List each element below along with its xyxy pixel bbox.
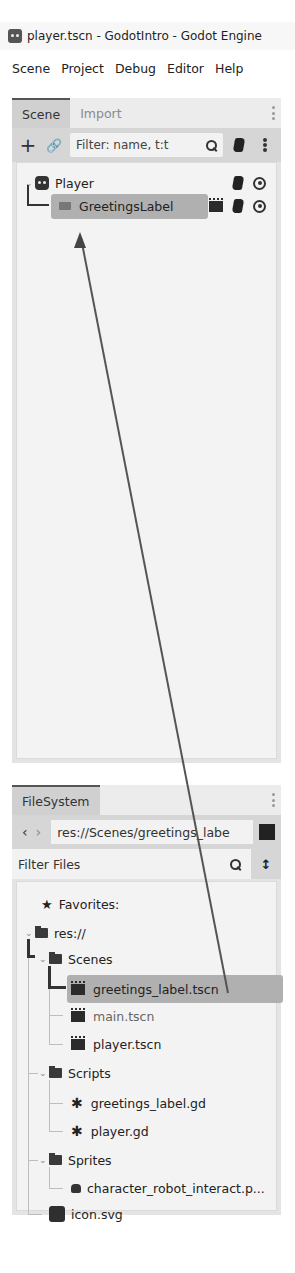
gear-icon: ✱ xyxy=(71,1096,83,1110)
file-label: icon.svg xyxy=(71,1207,123,1222)
file-label: Favorites: xyxy=(59,897,120,912)
search-icon xyxy=(206,140,217,151)
file-label: Scripts xyxy=(68,1066,111,1081)
player-node-icon xyxy=(35,176,49,190)
add-node-button[interactable]: + xyxy=(18,135,38,155)
filter-placeholder: Filter Files xyxy=(18,857,230,872)
node-actions xyxy=(209,199,266,213)
scene-icon xyxy=(71,1039,85,1050)
nav-arrows: ‹ › xyxy=(18,824,45,840)
label-node-icon xyxy=(59,202,71,210)
chevron-down-icon[interactable]: ⌄ xyxy=(39,1068,49,1078)
tab-bar-fill xyxy=(132,98,281,128)
folder-icon xyxy=(49,1155,62,1165)
folder-icon xyxy=(49,1068,62,1078)
toggle-split-icon[interactable] xyxy=(259,824,275,840)
window-title: player.tscn - GodotIntro - Godot Engine xyxy=(27,29,262,43)
attach-script-button[interactable] xyxy=(229,135,249,155)
file-item-greetings-label-tscn[interactable]: greetings_label.tscn xyxy=(17,975,276,1003)
file-item-greetings-label-gd[interactable]: ✱ greetings_label.gd xyxy=(17,1089,276,1117)
scene-menu-button[interactable] xyxy=(255,135,275,155)
filter-row: Filter Files ↕ xyxy=(12,849,281,879)
gear-icon: ✱ xyxy=(71,1124,83,1138)
file-label: Scenes xyxy=(68,952,113,967)
menu-help[interactable]: Help xyxy=(215,61,244,76)
dock-menu-icon[interactable] xyxy=(271,793,275,807)
file-item-player-tscn[interactable]: player.tscn xyxy=(17,1030,276,1058)
node-label: Player xyxy=(55,176,94,191)
folder-icon xyxy=(35,928,48,938)
link-icon[interactable]: 🔗 xyxy=(44,135,64,155)
chevron-down-icon[interactable]: ⌄ xyxy=(25,928,35,938)
node-label: GreetingsLabel xyxy=(79,199,173,214)
filter-files-input[interactable]: Filter Files xyxy=(12,849,251,879)
file-item-scripts[interactable]: ⌄ Scripts xyxy=(17,1059,276,1087)
tab-import[interactable]: Import xyxy=(70,98,132,128)
sort-button[interactable]: ↕ xyxy=(251,849,281,879)
scene-icon xyxy=(71,984,85,995)
chevron-down-icon[interactable]: ⌄ xyxy=(39,954,49,964)
back-button[interactable]: ‹ xyxy=(22,824,28,840)
file-label: greetings_label.gd xyxy=(91,1096,206,1111)
menu-editor[interactable]: Editor xyxy=(167,61,204,76)
chevron-down-icon[interactable]: ⌄ xyxy=(39,1155,49,1165)
scene-dock: Scene Import + 🔗 Filter: name, t:t ⌄ Pla… xyxy=(12,98,281,763)
image-icon xyxy=(71,1184,81,1193)
search-icon xyxy=(230,859,241,870)
scene-filter-input[interactable]: Filter: name, t:t xyxy=(70,133,223,157)
filesystem-dock-tabs: FileSystem xyxy=(12,785,281,815)
file-label: player.gd xyxy=(91,1124,149,1139)
file-label: player.tscn xyxy=(93,1037,161,1052)
file-item-favorites[interactable]: ★ Favorites: xyxy=(17,890,276,918)
path-field[interactable]: res://Scenes/greetings_labe xyxy=(51,820,253,844)
tab-scene[interactable]: Scene xyxy=(12,98,70,128)
menu-scene[interactable]: Scene xyxy=(12,61,50,76)
folder-icon xyxy=(49,954,62,964)
menu-bar: Scene Project Debug Editor Help xyxy=(0,55,295,81)
file-label: greetings_label.tscn xyxy=(93,982,219,997)
script-icon[interactable] xyxy=(232,199,244,213)
file-label: Sprites xyxy=(68,1153,112,1168)
menu-project[interactable]: Project xyxy=(61,61,104,76)
file-label: main.tscn xyxy=(93,1009,154,1024)
visibility-icon[interactable] xyxy=(253,200,266,213)
filesystem-dock: FileSystem ‹ › res://Scenes/greetings_la… xyxy=(12,785,281,1215)
script-icon xyxy=(233,138,245,152)
scene-dock-tabs: Scene Import xyxy=(12,98,281,128)
filesystem-nav-bar: ‹ › res://Scenes/greetings_labe xyxy=(12,815,281,849)
file-item-player-gd[interactable]: ✱ player.gd xyxy=(17,1117,276,1145)
file-item-character-robot-png[interactable]: character_robot_interact.p... xyxy=(17,1174,276,1202)
script-icon[interactable] xyxy=(232,176,244,190)
tree-node-greetingslabel[interactable]: GreetingsLabel xyxy=(17,192,276,220)
tab-bar-fill xyxy=(100,785,281,815)
sort-icon: ↕ xyxy=(261,857,272,872)
file-item-scenes[interactable]: ⌄ Scenes xyxy=(17,945,276,973)
kebab-icon xyxy=(263,138,267,152)
node-actions xyxy=(233,176,266,190)
scene-tree: ⌄ Player GreetingsLabel xyxy=(16,162,277,759)
scene-icon xyxy=(71,1011,85,1022)
file-item-icon-svg[interactable]: icon.svg xyxy=(17,1200,276,1228)
svg-icon xyxy=(49,1206,65,1222)
visibility-icon[interactable] xyxy=(253,177,266,190)
window-title-bar: player.tscn - GodotIntro - Godot Engine xyxy=(0,22,295,50)
godot-editor-left-dock: player.tscn - GodotIntro - Godot Engine … xyxy=(0,0,295,1273)
file-tree: ★ Favorites: ⌄ res:// ⌄ Scenes xyxy=(16,881,277,1211)
menu-debug[interactable]: Debug xyxy=(115,61,156,76)
file-label: character_robot_interact.p... xyxy=(87,1181,265,1196)
file-item-main-tscn[interactable]: main.tscn xyxy=(17,1002,276,1030)
filter-placeholder: Filter: name, t:t xyxy=(76,138,206,152)
file-item-res[interactable]: ⌄ res:// xyxy=(17,919,276,947)
forward-button[interactable]: › xyxy=(36,824,42,840)
dock-menu-icon[interactable] xyxy=(271,106,275,120)
godot-logo-icon xyxy=(8,29,22,43)
file-label: res:// xyxy=(54,926,86,941)
file-item-sprites[interactable]: ⌄ Sprites xyxy=(17,1146,276,1174)
star-icon: ★ xyxy=(41,897,53,912)
scene-toolbar: + 🔗 Filter: name, t:t xyxy=(12,128,281,162)
tab-filesystem[interactable]: FileSystem xyxy=(12,785,100,815)
instance-scene-icon[interactable] xyxy=(209,201,223,212)
